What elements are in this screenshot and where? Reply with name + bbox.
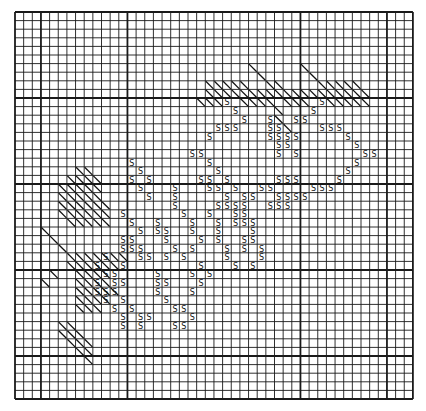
s-stitch: S (268, 184, 273, 193)
s-stitch: S (354, 159, 359, 168)
hatch-stitch (67, 322, 75, 330)
hatch-stitch (76, 185, 84, 193)
hatch-stitch (76, 167, 84, 175)
hatch-stitch (206, 99, 214, 107)
s-stitch: S (285, 193, 290, 202)
s-stitch: S (268, 202, 273, 211)
s-stitch: S (224, 124, 229, 133)
s-stitch: S (216, 167, 221, 176)
s-stitch: S (103, 253, 108, 262)
s-stitch: S (198, 262, 203, 271)
hatch-stitch (85, 176, 93, 184)
hatch-stitch (249, 99, 257, 107)
s-stitch: S (172, 245, 177, 254)
s-stitch: S (224, 176, 229, 185)
s-stitch: S (363, 150, 368, 159)
hatch-stitch (93, 185, 101, 193)
s-stitch: S (112, 288, 117, 297)
hatch-stitch (76, 262, 84, 270)
hatch-stitch (223, 90, 231, 98)
s-stitch: S (242, 116, 247, 125)
hatch-stitch (119, 253, 127, 261)
s-stitch: S (138, 227, 143, 236)
grid-lines (15, 12, 413, 399)
s-stitch: S (190, 313, 195, 322)
s-stitch: S (207, 159, 212, 168)
hatch-stitch (344, 81, 352, 89)
s-stitch: S (190, 270, 195, 279)
hatch-stitch (362, 90, 370, 98)
s-stitch: S (190, 245, 195, 254)
hatch-stitch (336, 81, 344, 89)
s-stitch: S (276, 150, 281, 159)
s-stitch: S (224, 253, 229, 262)
hatch-stitch (59, 322, 67, 330)
hatch-stitch (301, 64, 309, 72)
s-stitch: S (190, 150, 195, 159)
hatch-stitch (59, 210, 67, 218)
s-stitch: S (138, 184, 143, 193)
s-stitch: S (259, 184, 264, 193)
hatch-stitch (102, 262, 110, 270)
s-stitch: S (250, 236, 255, 245)
s-stitch: S (147, 313, 152, 322)
hatch-stitch (206, 90, 214, 98)
s-stitch: S (138, 167, 143, 176)
s-stitch: S (95, 262, 100, 271)
hatch-stitch (327, 90, 335, 98)
s-stitch: S (233, 107, 238, 116)
hatch-stitch (318, 81, 326, 89)
hatch-stitch (344, 90, 352, 98)
s-stitch: S (302, 193, 307, 202)
hatch-stitch (67, 331, 75, 339)
hatch-stitch (336, 99, 344, 107)
s-stitch: S (224, 202, 229, 211)
hatch-stitch (85, 202, 93, 210)
s-stitch: S (95, 288, 100, 297)
s-stitch: S (328, 124, 333, 133)
hatch-stitch (85, 348, 93, 356)
hatch-stitch (85, 253, 93, 261)
hatch-stitch (353, 99, 361, 107)
s-stitch: S (121, 262, 126, 271)
hatch-stitch (102, 210, 110, 218)
s-stitch: S (181, 322, 186, 331)
hatch-stitch (67, 193, 75, 201)
hatch-stitch (336, 90, 344, 98)
hatch-stitch (249, 90, 257, 98)
s-stitch: S (233, 219, 238, 228)
s-stitch: S (285, 202, 290, 211)
s-stitch: S (198, 236, 203, 245)
hatch-stitch (41, 228, 49, 236)
hatch-stitch (232, 90, 240, 98)
hatch-stitch (67, 219, 75, 227)
s-stitch: S (172, 305, 177, 314)
hatch-stitch (67, 262, 75, 270)
s-stitch: S (371, 150, 376, 159)
hatch-stitch (67, 202, 75, 210)
s-stitch: S (147, 253, 152, 262)
hatch-stitch (76, 202, 84, 210)
s-stitch: S (147, 176, 152, 185)
s-stitch: S (294, 133, 299, 142)
s-stitch: S (129, 159, 134, 168)
s-stitch: S (294, 116, 299, 125)
hatch-stitch (240, 99, 248, 107)
hatch-stitch (85, 210, 93, 218)
hatch-stitch (102, 219, 110, 227)
hatch-stitch (310, 90, 318, 98)
s-stitch: S (103, 296, 108, 305)
hatch-stitch (76, 210, 84, 218)
s-stitch: S (216, 202, 221, 211)
s-stitch: S (276, 176, 281, 185)
s-stitch: S (147, 193, 152, 202)
hatch-stitch (223, 81, 231, 89)
s-stitch: S (121, 296, 126, 305)
s-stitch: S (121, 210, 126, 219)
hatch-stitch (214, 90, 222, 98)
hatch-stitch (275, 90, 283, 98)
hatch-stitch (76, 253, 84, 261)
hatch-stitch (275, 81, 283, 89)
hatch-stitch (59, 193, 67, 201)
s-stitch: S (216, 124, 221, 133)
